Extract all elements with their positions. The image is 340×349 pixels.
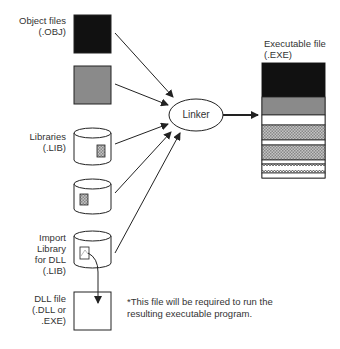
label-line: for DLL	[4, 254, 66, 265]
label-line: (.OBJ)	[4, 26, 66, 37]
label-line: (.LIB)	[4, 265, 66, 276]
import-library-label: Import Library for DLL (.LIB)	[4, 232, 66, 276]
executable-file-stack	[262, 63, 325, 178]
dll-file-box	[74, 292, 111, 330]
linker-label: Linker	[178, 109, 214, 120]
label-line: (.LIB)	[4, 142, 66, 153]
label-line: (.EXE)	[264, 49, 326, 60]
footnote: *This file will be required to run the r…	[127, 296, 273, 320]
object-file-2	[74, 66, 111, 104]
libraries-label: Libraries (.LIB)	[4, 131, 66, 153]
label-line: Executable file	[264, 38, 326, 49]
label-line: Object files	[4, 15, 66, 26]
label-line: Import	[4, 232, 66, 243]
dll-file-label: DLL file (.DLL or .EXE)	[4, 293, 66, 326]
footnote-line: *This file will be required to run the	[127, 296, 273, 308]
label-line: Libraries	[4, 131, 66, 142]
library-1-cylinder	[74, 128, 111, 165]
label-line: .EXE)	[4, 315, 66, 326]
library-2-cylinder	[74, 179, 111, 214]
label-line: DLL file	[4, 293, 66, 304]
object-file-1	[74, 15, 111, 53]
import-library-cylinder	[74, 231, 111, 268]
footnote-line: resulting executable program.	[127, 308, 273, 320]
label-line: Library	[4, 243, 66, 254]
label-line: (.DLL or	[4, 304, 66, 315]
object-files-label: Object files (.OBJ)	[4, 15, 66, 37]
executable-file-label: Executable file (.EXE)	[264, 38, 326, 60]
